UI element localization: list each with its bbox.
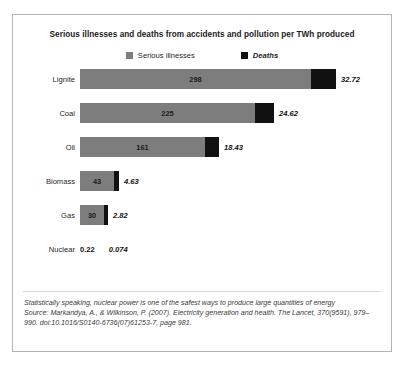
bar-value-deaths-biomass: 4.63 xyxy=(124,177,139,186)
bar-segment-deaths-oil xyxy=(205,137,219,157)
bar-value-illness-biomass: 43 xyxy=(93,177,101,186)
bar-group-oil: 161 18.43 xyxy=(80,137,243,157)
bar-segment-illness-gas: 30 xyxy=(80,205,104,225)
bar-segment-illness-biomass: 43 xyxy=(80,171,114,191)
bar-value-illness-coal: 225 xyxy=(161,109,173,118)
bar-row-nuclear: Nuclear 0.22 0.074 xyxy=(13,239,391,259)
gray-swatch-icon xyxy=(126,52,133,59)
chart-legend: Serious illnesses Deaths xyxy=(13,51,391,60)
bar-group-biomass: 43 4.63 xyxy=(80,171,139,191)
bar-segment-illness-coal: 225 xyxy=(80,103,255,123)
legend-label-serious-illnesses: Serious illnesses xyxy=(138,51,195,60)
bar-row-gas: Gas 30 2.82 xyxy=(13,205,391,225)
bar-value-deaths-nuclear: 0.074 xyxy=(109,245,128,254)
category-label-lignite: Lignite xyxy=(13,75,75,84)
bar-group-lignite: 298 32.72 xyxy=(80,69,360,89)
bar-segment-deaths-lignite xyxy=(311,69,336,89)
chart-figure: Serious illnesses and deaths from accide… xyxy=(12,14,392,352)
footnote-source: Source: Markandya, A., & Wilkinson, P. (… xyxy=(24,308,380,328)
category-label-oil: Oil xyxy=(13,143,75,152)
bar-value-deaths-lignite: 32.72 xyxy=(341,75,360,84)
category-label-biomass: Biomass xyxy=(13,177,75,186)
footnote-block: Statistically speaking, nuclear power is… xyxy=(24,298,380,328)
chart-plot-area: Lignite 298 32.72 Coal 225 24.62 Oil xyxy=(13,69,391,265)
bar-value-deaths-oil: 18.43 xyxy=(224,143,243,152)
footnote-divider xyxy=(23,291,381,292)
legend-label-deaths: Deaths xyxy=(253,51,278,60)
bar-row-coal: Coal 225 24.62 xyxy=(13,103,391,123)
bar-group-nuclear: 0.22 0.074 xyxy=(80,239,128,259)
bar-value-illness-oil: 161 xyxy=(136,143,148,152)
category-label-coal: Coal xyxy=(13,109,75,118)
bar-row-oil: Oil 161 18.43 xyxy=(13,137,391,157)
bar-row-lignite: Lignite 298 32.72 xyxy=(13,69,391,89)
legend-item-deaths: Deaths xyxy=(241,51,278,60)
bar-row-biomass: Biomass 43 4.63 xyxy=(13,171,391,191)
bar-value-illness-nuclear: 0.22 xyxy=(80,245,95,254)
category-label-nuclear: Nuclear xyxy=(13,245,75,254)
bar-segment-illness-oil: 161 xyxy=(80,137,205,157)
footnote-statement: Statistically speaking, nuclear power is… xyxy=(24,298,380,308)
bar-segment-deaths-gas xyxy=(104,205,108,225)
bar-value-deaths-gas: 2.82 xyxy=(113,211,128,220)
chart-title: Serious illnesses and deaths from accide… xyxy=(13,30,391,39)
bar-group-gas: 30 2.82 xyxy=(80,205,128,225)
bar-segment-illness-lignite: 298 xyxy=(80,69,311,89)
bar-value-deaths-coal: 24.62 xyxy=(279,109,298,118)
black-swatch-icon xyxy=(241,52,248,59)
legend-item-serious-illnesses: Serious illnesses xyxy=(126,51,195,60)
category-label-gas: Gas xyxy=(13,211,75,220)
bar-value-illness-lignite: 298 xyxy=(189,75,201,84)
bar-value-illness-gas: 30 xyxy=(88,211,96,220)
bar-group-coal: 225 24.62 xyxy=(80,103,298,123)
bar-segment-deaths-biomass xyxy=(114,171,119,191)
bar-segment-deaths-coal xyxy=(255,103,274,123)
